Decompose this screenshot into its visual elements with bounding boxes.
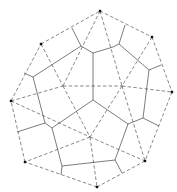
dashed-edge [122, 86, 145, 161]
solid-edge [149, 65, 161, 70]
solid-edge [24, 73, 33, 77]
dashed-edge [122, 37, 152, 86]
solid-edge [33, 77, 45, 123]
dashed-edge [152, 37, 172, 92]
site-point [10, 100, 12, 102]
solid-edge [45, 123, 52, 128]
solid-edge [33, 46, 81, 77]
solid-edge [128, 118, 143, 124]
dashed-edge [41, 11, 100, 44]
voronoi-cell-edges [17, 25, 161, 175]
site-points [10, 10, 173, 188]
voronoi-delaunay-diagram [0, 0, 177, 192]
solid-edge [143, 70, 149, 118]
dashed-edge [90, 137, 145, 161]
solid-edge [115, 160, 122, 173]
site-point [151, 36, 153, 38]
solid-edge [143, 118, 159, 126]
dashed-edge [100, 11, 122, 86]
site-point [171, 91, 173, 93]
solid-edge [119, 25, 125, 44]
solid-edge [113, 44, 119, 47]
dashed-edge [100, 11, 152, 37]
dashed-edge [11, 44, 41, 101]
solid-edge [81, 46, 93, 53]
site-point [96, 186, 98, 188]
dashed-edge [90, 86, 122, 137]
dashed-edge [145, 92, 172, 161]
solid-edge [72, 28, 81, 46]
solid-edge [93, 47, 113, 53]
solid-edge [62, 160, 115, 166]
solid-edge [61, 166, 62, 175]
solid-edge [52, 128, 62, 166]
site-point [24, 161, 26, 163]
solid-edge [17, 123, 45, 132]
site-point [40, 43, 42, 45]
solid-edge [93, 100, 128, 124]
delaunay-triangulation-edges [11, 11, 172, 187]
dashed-edge [97, 161, 145, 187]
dashed-edge [11, 101, 90, 137]
solid-edge [115, 124, 128, 160]
site-point [144, 160, 146, 162]
site-point [99, 10, 101, 12]
dashed-edge [63, 11, 100, 86]
